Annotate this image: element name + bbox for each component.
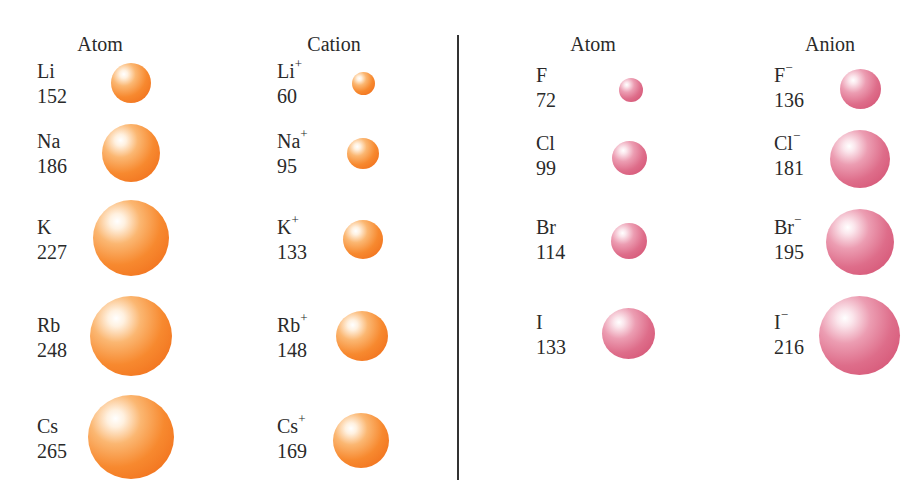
element-symbol: Li bbox=[37, 60, 55, 82]
charge: − bbox=[781, 307, 788, 322]
atom-sphere bbox=[93, 200, 169, 276]
radius-pm: 136 bbox=[774, 88, 804, 113]
group-divider bbox=[457, 35, 459, 480]
element-symbol: Cl bbox=[774, 132, 793, 154]
ion-label: K+ 133 bbox=[277, 215, 307, 265]
charge: + bbox=[295, 56, 302, 71]
radius-pm: 148 bbox=[277, 338, 308, 363]
atom-label: K 227 bbox=[37, 215, 67, 265]
element-symbol: Cs bbox=[37, 415, 58, 437]
radius-pm: 99 bbox=[536, 156, 556, 181]
charge: − bbox=[785, 60, 792, 75]
radius-pm: 72 bbox=[536, 88, 556, 113]
element-symbol: Li bbox=[277, 60, 295, 82]
ion-sphere bbox=[333, 413, 389, 468]
ion-sphere bbox=[347, 138, 379, 169]
ion-sphere bbox=[352, 72, 375, 95]
element-symbol: K bbox=[37, 216, 51, 238]
charge: + bbox=[291, 212, 298, 227]
element-symbol: F bbox=[774, 64, 785, 86]
ion-label: Cl− 181 bbox=[774, 131, 804, 181]
atom-label: Na 186 bbox=[37, 129, 67, 179]
element-symbol: Rb bbox=[277, 314, 300, 336]
element-symbol: Na bbox=[37, 130, 60, 152]
ion-label: Na+ 95 bbox=[277, 129, 308, 179]
atom-sphere bbox=[111, 63, 151, 103]
ion-label: Rb+ 148 bbox=[277, 313, 308, 363]
ion-label: Cs+ 169 bbox=[277, 414, 307, 464]
element-symbol: I bbox=[774, 311, 781, 333]
ion-sphere bbox=[840, 69, 881, 109]
element-symbol: F bbox=[536, 64, 547, 86]
ion-sphere bbox=[826, 209, 894, 275]
atom-label: Rb 248 bbox=[37, 313, 67, 363]
radius-pm: 169 bbox=[277, 439, 307, 464]
atom-sphere bbox=[611, 223, 647, 259]
atom-label: Cs 265 bbox=[37, 414, 67, 464]
radius-pm: 114 bbox=[536, 240, 565, 265]
charge: − bbox=[794, 212, 801, 227]
header-anion: Anion bbox=[790, 34, 870, 54]
charge: − bbox=[793, 128, 800, 143]
charge: + bbox=[300, 126, 307, 141]
atom-label: I 133 bbox=[536, 310, 566, 360]
radius-pm: 152 bbox=[37, 84, 67, 109]
radius-pm: 248 bbox=[37, 338, 67, 363]
element-symbol: I bbox=[536, 311, 543, 333]
element-symbol: Rb bbox=[37, 314, 60, 336]
element-symbol: Br bbox=[536, 216, 556, 238]
ion-label: Br− 195 bbox=[774, 215, 804, 265]
atom-label: Cl 99 bbox=[536, 131, 556, 181]
element-symbol: Cl bbox=[536, 132, 555, 154]
header-cation: Cation bbox=[294, 34, 374, 54]
radius-pm: 95 bbox=[277, 154, 308, 179]
element-symbol: Cs bbox=[277, 415, 298, 437]
ion-sphere bbox=[830, 130, 890, 188]
ion-label: F− 136 bbox=[774, 63, 804, 113]
charge: + bbox=[300, 310, 307, 325]
radius-pm: 265 bbox=[37, 439, 67, 464]
radius-pm: 60 bbox=[277, 84, 302, 109]
ion-sphere bbox=[819, 296, 900, 375]
atom-sphere bbox=[88, 395, 174, 479]
atom-label: F 72 bbox=[536, 63, 556, 113]
charge: + bbox=[298, 411, 305, 426]
atom-sphere bbox=[619, 78, 643, 102]
atom-label: Li 152 bbox=[37, 59, 67, 109]
atom-sphere bbox=[102, 124, 160, 182]
ion-sphere bbox=[343, 220, 383, 259]
radius-pm: 186 bbox=[37, 154, 67, 179]
element-symbol: K bbox=[277, 216, 291, 238]
radius-pm: 195 bbox=[774, 240, 804, 265]
atom-sphere bbox=[602, 308, 655, 359]
radius-pm: 181 bbox=[774, 156, 804, 181]
atom-sphere bbox=[90, 296, 172, 376]
atom-sphere bbox=[612, 141, 647, 175]
ion-label: I− 216 bbox=[774, 310, 804, 360]
radius-pm: 216 bbox=[774, 335, 804, 360]
radius-pm: 133 bbox=[536, 335, 566, 360]
header-halogen-atom: Atom bbox=[553, 34, 633, 54]
element-symbol: Br bbox=[774, 216, 794, 238]
radius-pm: 227 bbox=[37, 240, 67, 265]
ion-sphere bbox=[336, 311, 388, 361]
ion-label: Li+ 60 bbox=[277, 59, 302, 109]
element-symbol: Na bbox=[277, 130, 300, 152]
radius-pm: 133 bbox=[277, 240, 307, 265]
header-alkali-atom: Atom bbox=[60, 34, 140, 54]
atom-label: Br 114 bbox=[536, 215, 565, 265]
